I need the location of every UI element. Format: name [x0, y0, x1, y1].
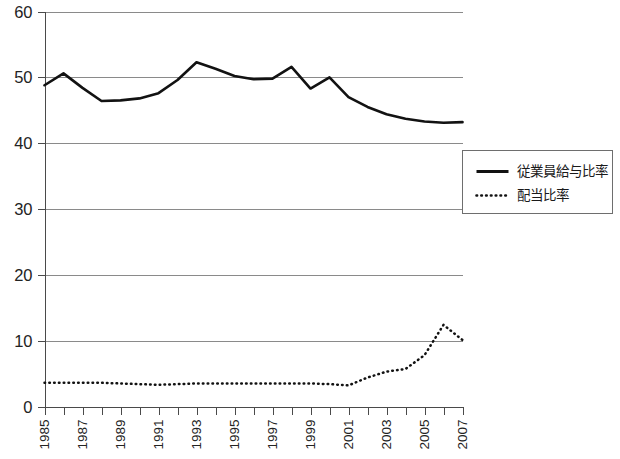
y-tick-label-0: 0	[23, 398, 32, 416]
x-tick-label-2007: 2007	[455, 420, 470, 450]
y-tick-label-40: 40	[14, 134, 32, 152]
x-tick-label-1997: 1997	[265, 420, 280, 450]
x-tick-label-2001: 2001	[341, 420, 356, 450]
series-line-1	[45, 62, 463, 123]
y-tick-label-50: 50	[14, 68, 32, 86]
y-tick-label-30: 30	[14, 200, 32, 218]
chart-canvas: 0102030405060 19851987198919911993199519…	[0, 0, 620, 459]
gridlines-group	[45, 13, 463, 408]
x-tick-label-1999: 1999	[303, 420, 318, 450]
legend-label-1: 従業員給与比率	[517, 163, 608, 179]
data-series-group	[45, 62, 463, 385]
series-line-2	[45, 325, 463, 386]
line-chart: 0102030405060 19851987198919911993199519…	[0, 0, 620, 459]
x-axis-tick-labels: 1985198719891991199319951997199920012003…	[37, 420, 470, 450]
x-tick-label-2003: 2003	[379, 420, 394, 450]
x-tick-label-1995: 1995	[227, 420, 242, 450]
y-axis-tick-labels: 0102030405060	[14, 3, 32, 416]
y-tick-marks-group	[38, 13, 45, 408]
x-tick-label-1989: 1989	[113, 420, 128, 450]
x-tick-label-1987: 1987	[75, 420, 90, 450]
legend-box	[463, 151, 613, 214]
y-tick-label-20: 20	[14, 266, 32, 284]
y-tick-label-60: 60	[14, 3, 32, 21]
chart-legend: 従業員給与比率配当比率	[463, 151, 613, 214]
x-tick-label-2005: 2005	[417, 420, 432, 450]
legend-label-2: 配当比率	[517, 187, 569, 203]
x-tick-label-1985: 1985	[37, 420, 52, 450]
x-tick-label-1991: 1991	[151, 420, 166, 450]
x-tick-label-1993: 1993	[189, 420, 204, 450]
y-tick-label-10: 10	[14, 332, 32, 350]
